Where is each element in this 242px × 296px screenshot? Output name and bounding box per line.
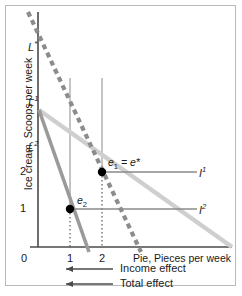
point-label-e2-sub: 2 [83,200,87,209]
origin-label: 0 [21,253,27,264]
y-tick-2: 2 [20,166,26,177]
figure-container: Ice cream, Scoops per week 2 1 0 1 2 Pie… [0,0,242,296]
curve-label-l1-sup: 1 [34,94,38,103]
point-e2 [66,205,74,213]
curve-label-lstar: L* [28,40,37,53]
budget-line-l2 [39,110,89,252]
curve-label-l2: L2 [28,140,38,153]
x-tick-2: 2 [99,253,105,264]
total-effect-arrow-icon [66,281,113,287]
point-label-e2: e2 [77,195,87,209]
curve-label-i1-sup: 1 [202,165,206,174]
income-effect-arrow-icon [66,266,113,272]
x-tick-1: 1 [67,253,73,264]
curve-label-l1: L1 [28,95,38,108]
curve-label-lstar-sup: * [34,39,37,48]
legend-income-effect-label: Income effect [120,263,186,274]
curve-label-i1: I1 [199,166,206,179]
curve-label-i2-sup: 2 [202,202,206,211]
curve-label-l2-sup: 2 [34,139,38,148]
point-label-e1-rest: = e* [118,156,140,168]
y-tick-1: 1 [20,203,26,214]
point-label-e1: e1 = e* [108,157,140,171]
legend-total-effect-label: Total effect [120,278,173,289]
point-e1 [98,168,106,176]
curve-label-i2: I2 [199,203,206,216]
